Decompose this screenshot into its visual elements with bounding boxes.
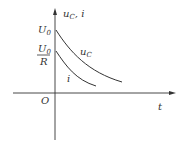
y-axis-arrow-icon: [53, 8, 57, 15]
rc-discharge-diagram: uC, i U0 U0 R uC i O t: [0, 0, 182, 148]
origin-label: O: [41, 95, 49, 106]
x-axis-label: t: [158, 101, 163, 112]
y-axis-label: uC, i: [63, 8, 84, 21]
curve-i-label: i: [67, 73, 70, 84]
u0r-numerator: U0: [38, 43, 51, 56]
x-axis-arrow-icon: [169, 91, 176, 95]
u0-label: U0: [38, 24, 51, 37]
curve-uc-label: uC: [80, 46, 92, 59]
u0r-denominator: R: [39, 56, 48, 67]
